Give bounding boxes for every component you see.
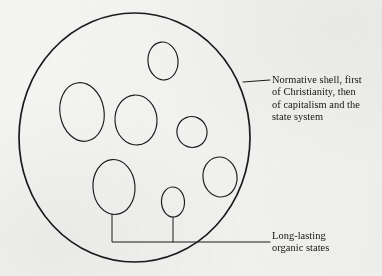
normative-shell-circle	[19, 13, 250, 262]
organic-state-center	[113, 94, 158, 147]
organic-state-bottom-right	[200, 155, 239, 199]
organic-state-top	[146, 41, 180, 82]
normative-shell-diagram: Normative shell, first of Christianity, …	[0, 0, 382, 276]
leader-line-shell	[243, 80, 270, 82]
organic-state-bottom-small	[161, 186, 186, 217]
organic-state-right-small	[172, 112, 211, 152]
leader-line-states	[112, 214, 270, 242]
label-normative-shell: Normative shell, first of Christianity, …	[272, 74, 380, 124]
organic-states-group	[55, 41, 239, 218]
label-organic-states: Long-lasting organic states	[272, 230, 380, 255]
organic-state-bottom-left	[91, 158, 137, 216]
organic-state-left	[55, 79, 109, 145]
